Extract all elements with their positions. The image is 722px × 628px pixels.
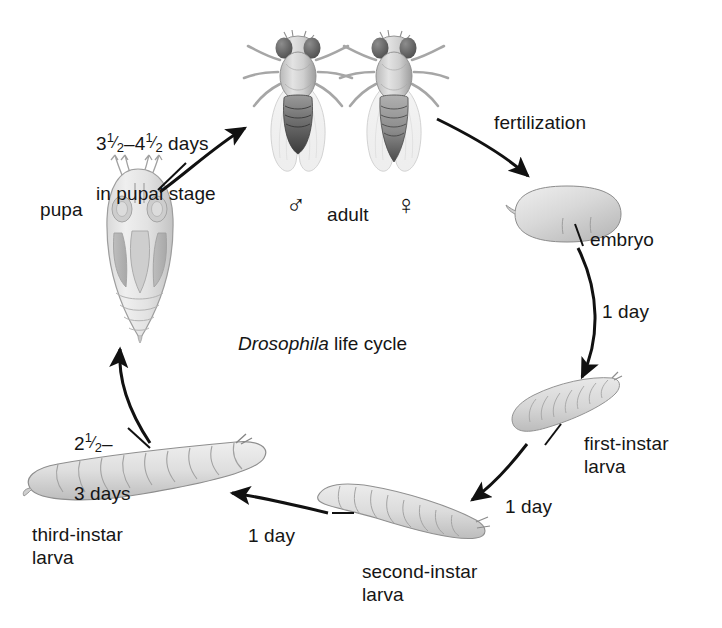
pupa-label: pupa — [40, 198, 83, 221]
pupa-to-adult-duration-line2: in pupal stage — [96, 182, 216, 205]
third-instar-to-pupa-duration-line1: 21⁄2– — [74, 403, 131, 459]
male-symbol: ♂ — [286, 192, 306, 219]
first-instar-larva-label: first-instar larva — [584, 432, 669, 478]
third-instar-larva-illustration — [22, 432, 282, 524]
pupa-to-adult-duration-label: 31⁄2–41⁄2 days in pupal stage — [96, 80, 216, 228]
embryo-label: embryo — [590, 228, 654, 251]
second-instar-larva-label: second-instar larva — [362, 560, 477, 606]
adult-label: adult — [327, 203, 369, 226]
third-instar-larva-label: third-instar larva — [32, 523, 123, 569]
genus-name: Drosophila — [238, 333, 329, 354]
female-symbol: ♀ — [396, 192, 416, 219]
drosophila-life-cycle-figure: 31⁄2–41⁄2 days in pupal stage pupa ♂ adu… — [0, 0, 722, 628]
third-instar-to-pupa-duration-line2: 3 days — [74, 482, 131, 505]
fly-adult-pair-illustration — [240, 22, 480, 192]
second-to-third-instar-duration-label: 1 day — [248, 524, 295, 547]
title-rest: life cycle — [329, 333, 407, 354]
second-instar-larva-illustration — [310, 470, 500, 550]
first-to-second-instar-duration-label: 1 day — [505, 495, 552, 518]
third-instar-to-pupa-duration-label: 21⁄2– 3 days — [74, 380, 131, 528]
fertilization-label: fertilization — [494, 111, 586, 134]
arrow-embryo-to-first-instar — [578, 248, 595, 377]
figure-center-title: Drosophila life cycle — [238, 333, 407, 355]
pupa-to-adult-duration-line1: 31⁄2–41⁄2 days — [96, 103, 216, 159]
embryo-to-first-instar-duration-label: 1 day — [602, 300, 649, 323]
